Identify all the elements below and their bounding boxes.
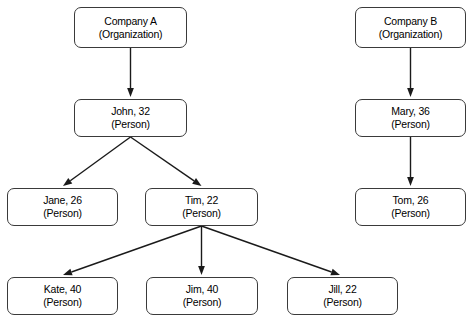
node-title: Jim, 40 (186, 283, 218, 296)
node-mary[interactable]: Mary, 36(Person) (355, 99, 466, 137)
edge-tim-jill (202, 226, 341, 275)
node-john[interactable]: John, 32(Person) (74, 99, 187, 137)
node-tim[interactable]: Tim, 22(Person) (145, 188, 258, 226)
node-jill[interactable]: Jill, 22(Person) (287, 277, 398, 315)
node-type-label: (Organization) (99, 28, 163, 41)
edge-companyA-john (127, 48, 134, 97)
node-title: Tom, 26 (393, 194, 429, 207)
node-title: John, 32 (111, 105, 150, 118)
node-type-label: (Person) (391, 207, 430, 220)
node-type-label: (Person) (43, 296, 82, 309)
node-title: Company B (384, 15, 437, 28)
node-title: Kate, 40 (44, 283, 82, 296)
node-companyB[interactable]: Company B(Organization) (355, 7, 466, 48)
node-title: Jill, 22 (328, 283, 356, 296)
node-type-label: (Person) (43, 207, 82, 220)
node-type-label: (Person) (391, 118, 430, 131)
node-title: Company A (104, 15, 156, 28)
node-type-label: (Person) (323, 296, 362, 309)
edge-mary-tom (407, 137, 414, 186)
node-title: Tim, 22 (185, 194, 218, 207)
node-type-label: (Person) (182, 207, 221, 220)
edge-john-jane (63, 137, 131, 186)
node-jim[interactable]: Jim, 40(Person) (146, 277, 258, 315)
node-title: Jane, 26 (43, 194, 82, 207)
entity-relationship-diagram: Company A(Organization)Company B(Organiz… (0, 0, 472, 325)
edge-tim-jim (198, 226, 205, 275)
node-type-label: (Person) (183, 296, 222, 309)
node-jane[interactable]: Jane, 26(Person) (7, 188, 118, 226)
node-kate[interactable]: Kate, 40(Person) (7, 277, 118, 315)
node-tom[interactable]: Tom, 26(Person) (355, 188, 466, 226)
edge-companyB-mary (407, 48, 414, 97)
edge-john-tim (131, 137, 202, 186)
node-type-label: (Organization) (379, 28, 443, 41)
node-companyA[interactable]: Company A(Organization) (74, 7, 187, 48)
node-title: Mary, 36 (391, 105, 429, 118)
edge-tim-kate (63, 226, 202, 275)
node-type-label: (Person) (111, 118, 150, 131)
